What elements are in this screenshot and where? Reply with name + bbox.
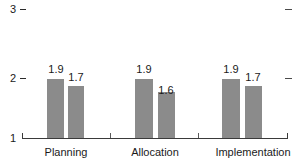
y-tick-label-1: 1 xyxy=(2,133,16,144)
bar-implementation-series-1 xyxy=(222,79,240,138)
bar-value-allocation-series-1: 1.9 xyxy=(131,64,157,75)
bar-chart: 3 2 1 1.9 1.7 Planning 1.9 1.6 Allocatio… xyxy=(0,0,300,168)
x-tick-label-allocation: Allocation xyxy=(119,147,191,158)
bar-planning-series-2 xyxy=(68,86,84,138)
group-separator-tick-1 xyxy=(110,133,111,138)
bar-implementation-series-2 xyxy=(245,86,262,138)
group-separator-tick-2 xyxy=(198,133,199,138)
x-axis-line xyxy=(22,138,288,139)
bar-value-implementation-series-2: 1.7 xyxy=(240,72,266,83)
y-tick-label-3: 3 xyxy=(2,4,16,15)
right-tick-2 xyxy=(285,78,292,79)
right-tick-3 xyxy=(285,9,292,10)
bar-allocation-series-1 xyxy=(135,79,153,138)
bar-value-planning-series-2: 1.7 xyxy=(63,72,89,83)
bar-planning-series-1 xyxy=(47,79,64,138)
bar-value-allocation-series-2: 1.6 xyxy=(153,85,179,96)
x-tick-label-planning: Planning xyxy=(30,147,102,158)
y-tick-label-2: 2 xyxy=(2,73,16,84)
y-tick-mark-2 xyxy=(20,78,26,79)
x-tick-label-implementation: Implementation xyxy=(205,147,300,158)
axis-right-stub xyxy=(287,133,288,139)
y-tick-mark-3 xyxy=(20,9,26,10)
bar-allocation-series-2 xyxy=(158,92,175,138)
